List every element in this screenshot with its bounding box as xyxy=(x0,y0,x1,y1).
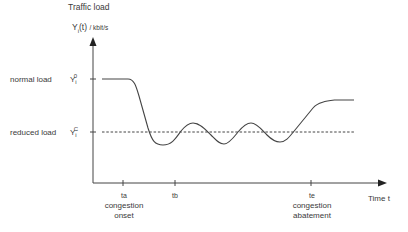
tick-tb: tb xyxy=(172,191,178,201)
tick-caption-line1: congestion xyxy=(105,201,144,211)
tick-caption-line2: abatement xyxy=(293,211,332,221)
traffic-load-diagram xyxy=(0,0,408,232)
tick-symbol: te xyxy=(293,191,332,201)
subscript: i xyxy=(75,79,76,85)
normal-load-label: normal load xyxy=(10,75,52,84)
normal-load-symbol: Yi0 xyxy=(70,73,80,85)
reduced-load-label: reduced load xyxy=(10,128,56,137)
y-axis-arrow-icon xyxy=(90,37,97,46)
superscript: C xyxy=(74,126,78,132)
y-axis-label: Yi(t) / kbit/s xyxy=(72,22,108,34)
tick-symbol: tb xyxy=(172,191,178,201)
y-suffix: (t) xyxy=(79,22,87,32)
subscript: i xyxy=(75,132,76,138)
tick-te: te congestion abatement xyxy=(293,191,332,221)
x-axis-arrow-icon xyxy=(378,180,387,187)
y-unit: / kbit/s xyxy=(89,24,108,31)
chart-title: Traffic load xyxy=(68,2,110,12)
tick-symbol: ta xyxy=(105,191,144,201)
x-axis-label: Time t xyxy=(368,194,390,203)
superscript: 0 xyxy=(74,73,77,79)
traffic-curve xyxy=(102,79,354,145)
tick-caption-line1: congestion xyxy=(293,201,332,211)
tick-ta: ta congestion onset xyxy=(105,191,144,221)
tick-caption-line2: onset xyxy=(105,211,144,221)
reduced-load-symbol: YiC xyxy=(70,126,81,138)
